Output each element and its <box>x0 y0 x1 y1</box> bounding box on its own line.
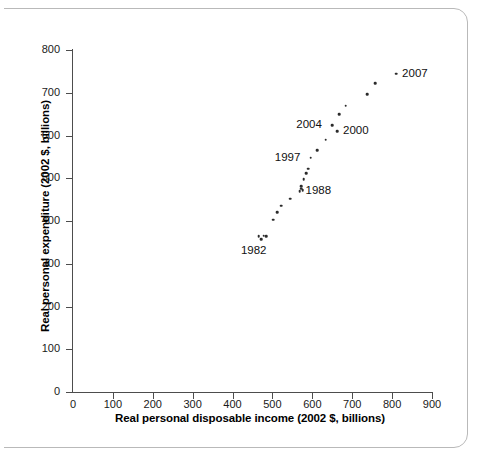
x-tick-label: 900 <box>412 399 452 410</box>
data-point <box>395 72 398 75</box>
page-canvas: 0100200300400500600700800 01002003004005… <box>0 0 493 460</box>
point-annotation-1982: 1982 <box>241 244 267 256</box>
y-axis-title: Real personal expenditure (2002 $, billi… <box>39 51 51 381</box>
x-tick-label: 500 <box>252 399 292 410</box>
x-tick-label: 700 <box>332 399 372 410</box>
x-axis-title: Real personal disposable income (2002 $,… <box>40 412 460 424</box>
point-annotation-2007: 2007 <box>402 67 428 79</box>
data-point <box>300 185 303 188</box>
x-axis-line <box>72 392 433 393</box>
y-tick <box>66 136 72 137</box>
y-tick <box>66 264 72 265</box>
point-annotation-2004: 2004 <box>296 118 322 130</box>
data-point <box>265 235 268 238</box>
data-point <box>309 156 312 159</box>
data-point <box>298 190 301 193</box>
data-point <box>374 82 377 85</box>
scatter-chart-figure: 0100200300400500600700800 01002003004005… <box>0 0 493 460</box>
y-tick <box>66 392 72 393</box>
data-point <box>260 238 263 241</box>
point-annotation-1997: 1997 <box>275 151 301 163</box>
data-point <box>316 149 319 152</box>
data-point <box>305 172 308 175</box>
data-point <box>338 113 341 116</box>
y-axis-line <box>72 49 73 393</box>
x-tick-label: 100 <box>93 399 133 410</box>
point-annotation-1988: 1988 <box>306 184 332 196</box>
x-tick-label: 0 <box>53 399 93 410</box>
data-point <box>307 168 310 171</box>
x-tick-label: 400 <box>213 399 253 410</box>
data-point <box>272 218 275 221</box>
y-tick <box>66 50 72 51</box>
data-point <box>302 178 305 181</box>
data-point <box>301 189 304 192</box>
y-tick <box>66 349 72 350</box>
data-point <box>345 104 348 107</box>
data-point <box>280 204 283 207</box>
data-point <box>366 93 369 96</box>
y-tick-label: 0 <box>20 386 60 397</box>
data-point <box>336 130 339 133</box>
data-point <box>276 211 279 214</box>
y-tick <box>66 307 72 308</box>
x-tick-label: 300 <box>173 399 213 410</box>
data-point <box>289 197 292 200</box>
y-tick <box>66 221 72 222</box>
y-tick <box>66 93 72 94</box>
x-tick-label: 200 <box>133 399 173 410</box>
x-tick-label: 800 <box>372 399 412 410</box>
data-point <box>331 124 334 127</box>
y-tick <box>66 178 72 179</box>
x-tick-label: 600 <box>292 399 332 410</box>
point-annotation-2000: 2000 <box>343 124 369 136</box>
data-point <box>325 138 328 141</box>
